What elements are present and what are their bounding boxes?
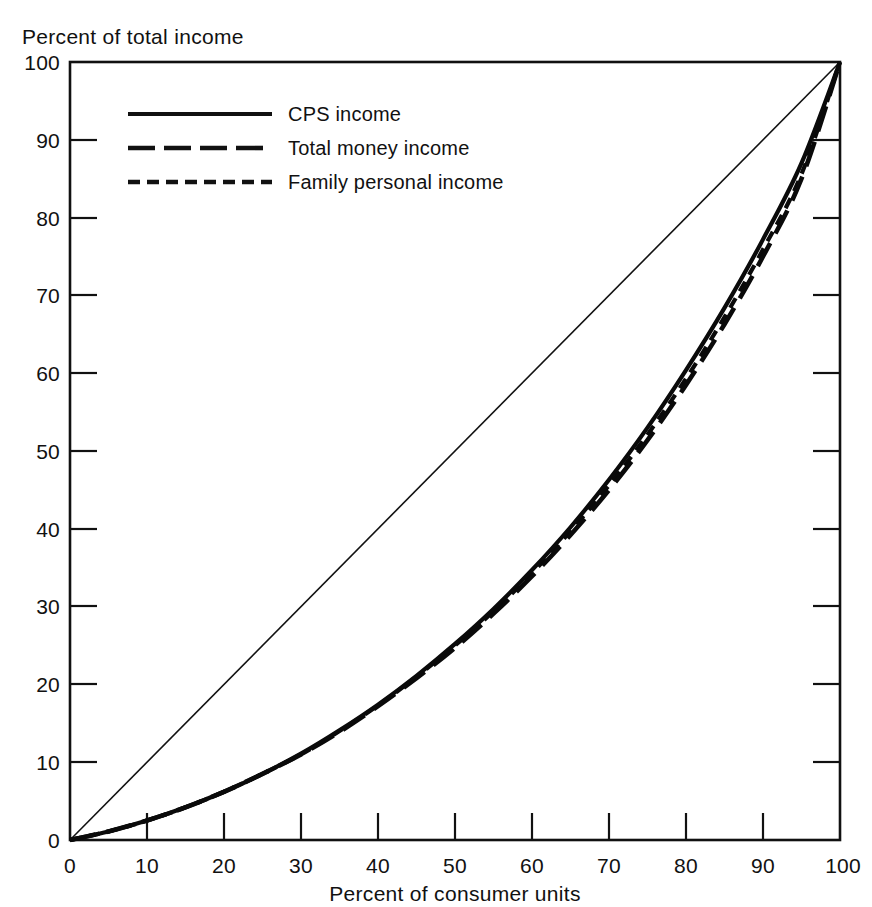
legend-label-cps-income: CPS income — [288, 103, 401, 125]
x-label-70: 70 — [597, 854, 621, 877]
x-label-80: 80 — [674, 854, 698, 877]
y-tick-labels: 100 90 80 70 60 50 40 30 20 10 0 — [24, 51, 60, 852]
x-label-40: 40 — [366, 854, 390, 877]
x-label-10: 10 — [135, 854, 159, 877]
y-label-20: 20 — [36, 673, 60, 696]
chart-page: Percent of total income — [0, 0, 872, 907]
lorenz-curve-chart: Percent of total income — [0, 0, 872, 907]
y-label-0: 0 — [48, 829, 60, 852]
y-label-30: 30 — [36, 595, 60, 618]
legend-label-total-money-income: Total money income — [288, 137, 469, 159]
x-axis-title: Percent of consumer units — [329, 882, 580, 905]
x-label-60: 60 — [520, 854, 544, 877]
legend-label-family-personal-income: Family personal income — [288, 171, 504, 193]
y-label-70: 70 — [36, 284, 60, 307]
y-label-80: 80 — [36, 207, 60, 230]
y-label-100: 100 — [24, 51, 60, 74]
legend: CPS income Total money income Family per… — [128, 103, 504, 193]
x-label-30: 30 — [289, 854, 313, 877]
y-label-60: 60 — [36, 362, 60, 385]
y-label-90: 90 — [36, 129, 60, 152]
x-label-90: 90 — [751, 854, 775, 877]
y-label-40: 40 — [36, 518, 60, 541]
y-axis-title: Percent of total income — [22, 25, 244, 48]
x-label-50: 50 — [443, 854, 467, 877]
y-label-10: 10 — [36, 751, 60, 774]
x-label-0: 0 — [64, 854, 76, 877]
y-tick-marks — [70, 140, 97, 762]
x-label-20: 20 — [212, 854, 236, 877]
x-tick-labels: 0 10 20 30 40 50 60 70 80 90 100 — [64, 854, 861, 877]
y-label-50: 50 — [36, 440, 60, 463]
x-label-100: 100 — [825, 854, 861, 877]
x-tick-marks — [147, 813, 763, 840]
right-tick-marks — [813, 140, 840, 762]
